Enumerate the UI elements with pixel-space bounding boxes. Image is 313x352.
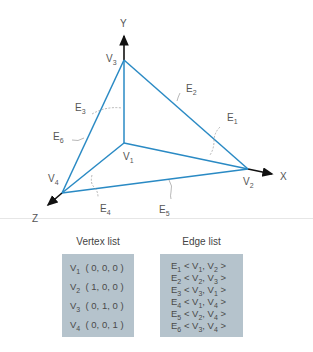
edge-label-e5: E5 — [159, 204, 170, 217]
edge-label-e3: E3 — [75, 102, 86, 115]
z-axis-label: Z — [32, 213, 38, 224]
leader-e5 — [169, 180, 172, 199]
vertex-row: V2 ( 1, 0, 0 ) — [70, 281, 134, 294]
leader-e6 — [72, 138, 84, 141]
vertex-label-v1: V1 — [123, 151, 134, 164]
edge-e1 — [124, 143, 248, 169]
tetrahedron-diagram: Y X Z V3 V1 V2 V4 E2 E3 E6 E1 E4 E5 — [0, 0, 313, 352]
y-axis-label: Y — [120, 18, 127, 29]
vertex-row: V1 ( 0, 0, 0 ) — [70, 262, 134, 275]
edge-label-e4: E4 — [100, 203, 111, 216]
edge-row: E5 < V2, V4 > — [171, 308, 243, 321]
vertex-row: V3 ( 0, 1, 0 ) — [70, 300, 134, 313]
leader-e3 — [92, 108, 122, 114]
vertex-label-v4: V4 — [48, 173, 59, 186]
edge-row: E3 < V3, V1 > — [171, 284, 243, 297]
edge-e6 — [62, 60, 124, 193]
x-axis-arrow — [248, 169, 272, 174]
edge-label-e2: E2 — [186, 83, 197, 96]
x-axis-label: X — [280, 171, 287, 182]
leader-e4 — [91, 175, 98, 197]
edge-row: E2 < V2, V3 > — [171, 272, 243, 285]
vertex-list-table: V1 ( 0, 0, 0 ) V2 ( 1, 0, 0 ) V3 ( 0, 1,… — [62, 254, 134, 337]
vertex-row: V4 ( 0, 0, 1 ) — [70, 319, 134, 332]
edge-list-table: E1 < V1, V2 > E2 < V2, V3 > E3 < V3, V1 … — [160, 254, 243, 337]
edge-row: E6 < V3, V4 > — [171, 320, 243, 333]
edge-e5 — [62, 169, 248, 193]
leader-e2 — [177, 93, 180, 101]
edge-row: E1 < V1, V2 > — [171, 260, 243, 273]
leader-e1 — [210, 127, 220, 155]
edge-label-e6: E6 — [53, 131, 64, 144]
edge-list-title: Edge list — [160, 236, 243, 247]
vertex-list-title: Vertex list — [62, 236, 134, 247]
edge-row: E4 < V1, V4 > — [171, 296, 243, 309]
vertex-label-v2: V2 — [243, 176, 254, 189]
vertex-label-v3: V3 — [106, 53, 117, 66]
z-axis-arrow — [48, 193, 62, 205]
edge-label-e1: E1 — [227, 112, 238, 125]
